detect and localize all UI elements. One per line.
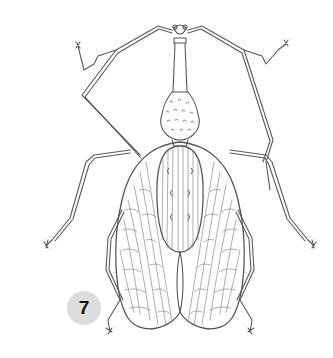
pronotum	[161, 92, 200, 146]
figure-number: 7	[79, 297, 90, 319]
neck	[173, 43, 187, 92]
figure-number-badge: 7	[67, 291, 101, 325]
front-tarsus-left	[76, 42, 116, 70]
hind-leg-left	[106, 210, 124, 334]
front-tarsus-right	[244, 40, 288, 64]
head	[173, 25, 187, 43]
front-leg-left	[82, 26, 172, 158]
beetle-illustration	[0, 0, 333, 358]
hind-leg-right	[236, 210, 254, 334]
central-plate	[157, 146, 203, 252]
